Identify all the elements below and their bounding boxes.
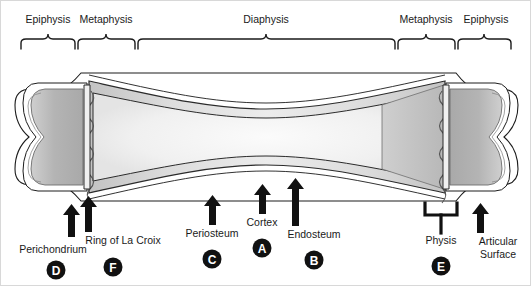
badge-a-letter: A	[258, 242, 267, 256]
callout-label-articular-surface-line1: Articular	[479, 235, 518, 247]
callout-label-periosteum: Periosteum	[185, 227, 238, 239]
region-label-metaphysis-right: Metaphysis	[399, 13, 452, 25]
region-label-epiphysis-right: Epiphysis	[464, 13, 509, 25]
badge-c: C	[203, 250, 222, 269]
bracket-epiphysis-left	[21, 34, 75, 49]
arrow-perichondrium	[63, 204, 80, 237]
bracket-diaphysis	[138, 34, 395, 49]
callout-label-ring-of-la-croix: Ring of La Croix	[85, 234, 161, 246]
badge-c-letter: C	[208, 253, 217, 267]
physis-left-band	[84, 85, 90, 189]
callout-label-endosteum: Endosteum	[287, 228, 340, 240]
region-label-group: Epiphysis Metaphysis Diaphysis Metaphysi…	[26, 13, 509, 25]
diagram-canvas: Epiphysis Metaphysis Diaphysis Metaphysi…	[1, 1, 531, 286]
bracket-epiphysis-right	[458, 34, 511, 49]
arrow-articular-surface	[472, 203, 489, 233]
badge-e: E	[432, 257, 451, 276]
physis-right-band	[443, 85, 449, 189]
bracket-metaphysis-right	[398, 34, 455, 49]
region-label-diaphysis: Diaphysis	[243, 13, 289, 25]
badge-f-letter: F	[109, 261, 116, 275]
badge-b-letter: B	[310, 254, 319, 268]
callout-label-perichondrium: Perichondrium	[19, 243, 87, 255]
bone-anatomy-figure: Epiphysis Metaphysis Diaphysis Metaphysi…	[0, 0, 531, 286]
callout-label-cortex: Cortex	[247, 216, 279, 228]
badge-b: B	[305, 251, 324, 270]
badge-a: A	[253, 239, 272, 258]
badge-f: F	[104, 258, 123, 277]
region-label-metaphysis-left: Metaphysis	[79, 13, 132, 25]
callout-label-physis: Physis	[426, 234, 457, 246]
physis-bracket-pointer	[425, 203, 457, 233]
badge-e-letter: E	[437, 260, 445, 274]
bracket-metaphysis-left	[78, 34, 135, 49]
region-label-epiphysis-left: Epiphysis	[26, 13, 71, 25]
callout-label-articular-surface-line2: Surface	[480, 248, 516, 260]
badge-d: D	[47, 261, 66, 280]
badge-d-letter: D	[52, 264, 61, 278]
region-bracket-group	[21, 34, 511, 49]
bone-illustration	[15, 73, 518, 203]
